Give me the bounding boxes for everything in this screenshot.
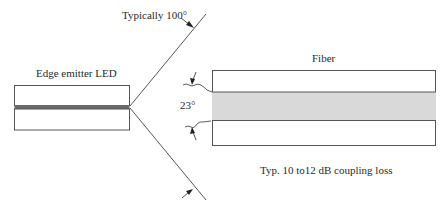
wavy-leader-bottom [185, 121, 211, 128]
coupling-loss-label: Typ. 10 to12 dB coupling loss [260, 165, 392, 176]
acceptance-angle-label: 23° [180, 100, 195, 111]
fiber-cladding-top [213, 71, 436, 93]
cone-upper-edge [130, 14, 206, 106]
arrow-upper-icon [186, 21, 194, 28]
led-upper-body [15, 86, 130, 106]
led-fiber-coupling-diagram [0, 0, 448, 214]
beam-angle-label: Typically 100° [122, 10, 187, 21]
edge-emitter-led [15, 86, 130, 131]
led-lower-body [15, 109, 130, 130]
led-active-layer [15, 105, 130, 109]
wavy-leader-top [183, 84, 212, 92]
fiber-cladding-bottom [213, 121, 436, 146]
fiber-label: Fiber [312, 53, 335, 64]
cone-lower-edge [130, 108, 206, 200]
fiber [212, 71, 436, 146]
led-label: Edge emitter LED [36, 68, 117, 79]
arrow-top-icon [190, 78, 195, 85]
arrow-bottom-icon [190, 127, 195, 134]
fiber-core [212, 92, 436, 120]
